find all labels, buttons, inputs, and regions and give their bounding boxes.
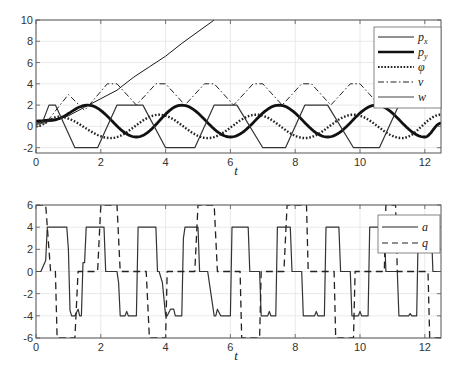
x-tick-label: 2: [98, 341, 104, 353]
x-tick-label: 10: [354, 341, 366, 353]
y-tick-label: 0: [27, 120, 33, 132]
series-px-line: [36, 20, 214, 123]
top-x-axis-label: t: [234, 163, 238, 178]
y-tick-label: 4: [27, 221, 33, 233]
y-tick-label: 6: [27, 57, 33, 69]
y-tick-label: 0: [27, 266, 33, 278]
figure: 024681012-20246810 t px py φ v w 0246810…: [0, 0, 461, 377]
legend-phi-label: φ: [418, 60, 425, 74]
y-tick-label: -6: [23, 332, 33, 344]
bottom-plot: 024681012-6-4-20246 t a q: [23, 199, 441, 363]
y-tick-label: 6: [27, 199, 33, 211]
x-tick-label: 8: [292, 341, 298, 353]
bottom-x-axis-label: t: [234, 348, 238, 363]
bottom-legend: a q: [378, 215, 440, 253]
x-tick-label: 6: [227, 156, 233, 168]
y-tick-label: -4: [23, 310, 33, 322]
y-tick-label: -2: [23, 288, 33, 300]
y-tick-label: -2: [23, 142, 33, 154]
top-legend: px py φ v w: [374, 27, 441, 108]
legend-w-label: w: [418, 90, 426, 104]
x-tick-label: 8: [292, 156, 298, 168]
x-tick-label: 2: [98, 156, 104, 168]
x-tick-label: 4: [163, 341, 169, 353]
series-py-line: [36, 105, 441, 137]
x-tick-label: 6: [227, 341, 233, 353]
bottom-legend-box: [378, 215, 440, 253]
legend-v-label: v: [418, 75, 424, 89]
y-tick-label: 2: [27, 99, 33, 111]
y-tick-label: 2: [27, 243, 33, 255]
legend-q-label: q: [422, 236, 428, 250]
legend-a-label: a: [422, 220, 428, 234]
x-tick-label: 12: [419, 156, 431, 168]
x-tick-label: 12: [419, 341, 431, 353]
top-plot: 024681012-20246810 t px py φ v w: [21, 14, 441, 178]
y-tick-label: 8: [27, 35, 33, 47]
y-tick-label: 4: [27, 78, 33, 90]
x-tick-label: 4: [163, 156, 169, 168]
x-tick-label: 0: [33, 341, 39, 353]
x-tick-label: 0: [33, 156, 39, 168]
x-tick-label: 10: [354, 156, 366, 168]
y-tick-label: 10: [21, 14, 33, 26]
